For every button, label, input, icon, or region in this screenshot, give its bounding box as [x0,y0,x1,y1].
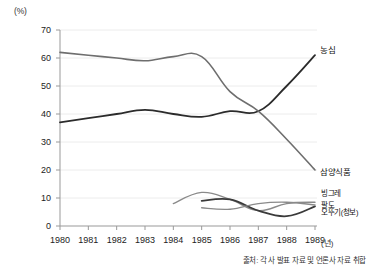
series-label-binggrae: 빙그레 [321,190,341,198]
y-tick-label: 20 [27,165,51,175]
y-tick-label: 60 [27,53,51,63]
line-chart: (%) 010203040506070 19801981198219831984… [0,0,374,270]
y-tick-label: 10 [27,193,51,203]
series-label-ottogi: 오뚜기(청보) [321,209,358,217]
x-axis-unit-label: (년) [321,237,333,248]
gridlines [60,30,317,198]
y-tick-marks [56,30,60,226]
source-note: 출처: 각 사 발표 자료 및 언론사 자료 취합 [243,254,366,265]
y-tick-label: 30 [27,137,51,147]
y-tick-label: 70 [27,25,51,35]
chart-plot-area [0,0,374,270]
series-label-samyang: 삼양식품 [320,165,351,177]
y-tick-label: 40 [27,109,51,119]
y-tick-label: 0 [27,221,51,231]
data-series-group [60,52,315,216]
y-tick-label: 50 [27,81,51,91]
x-tick-marks [60,226,315,230]
series-label-nongshim: 농심 [320,43,335,55]
